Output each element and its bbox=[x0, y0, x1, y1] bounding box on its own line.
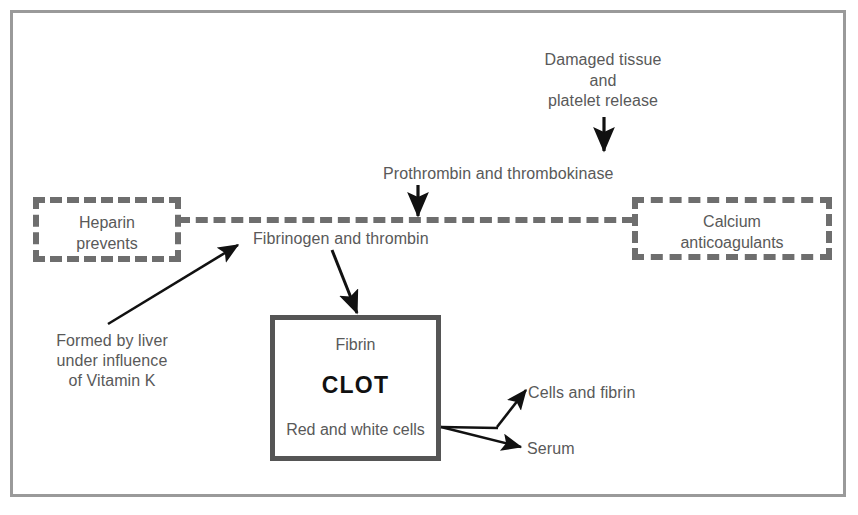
damaged-tissue-line3: platelet release bbox=[548, 91, 658, 111]
calcium-box-line1: Calcium bbox=[638, 211, 826, 232]
clot-box-clot-label: CLOT bbox=[275, 372, 436, 399]
liver-note-line1: Formed by liver bbox=[56, 331, 168, 351]
heparin-prevents-box: Heparin prevents bbox=[33, 197, 181, 262]
damaged-tissue-line1: Damaged tissue bbox=[544, 50, 661, 70]
clot-box: Fibrin CLOT Red and white cells bbox=[270, 315, 441, 461]
clot-box-cells-label: Red and white cells bbox=[275, 421, 436, 439]
serum-label: Serum bbox=[527, 439, 575, 459]
heparin-box-line1: Heparin bbox=[39, 212, 175, 233]
liver-note-line2: under influence bbox=[57, 351, 168, 371]
calcium-box-line2: anticoagulants bbox=[638, 232, 826, 253]
damaged-tissue-line2: and bbox=[590, 71, 617, 91]
fibrinogen-thrombin-label: Fibrinogen and thrombin bbox=[253, 229, 429, 249]
heparin-box-line2: prevents bbox=[39, 233, 175, 254]
dashed-connector-line bbox=[178, 217, 634, 223]
calcium-anticoagulants-box: Calcium anticoagulants bbox=[632, 197, 832, 260]
liver-note-line3: of Vitamin K bbox=[68, 371, 155, 391]
cells-and-fibrin-label: Cells and fibrin bbox=[528, 383, 635, 403]
diagram-canvas: Heparin prevents Calcium anticoagulants … bbox=[0, 0, 858, 515]
prothrombin-thrombokinase-label: Prothrombin and thrombokinase bbox=[383, 164, 614, 184]
clot-box-fibrin-label: Fibrin bbox=[275, 336, 436, 354]
